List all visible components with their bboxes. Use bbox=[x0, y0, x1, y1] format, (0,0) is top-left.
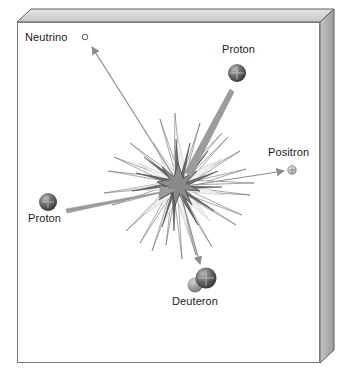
label-positron: Positron bbox=[268, 146, 309, 158]
frame-slab-right bbox=[320, 9, 334, 363]
particle-proton-left bbox=[39, 193, 57, 211]
label-neutrino: Neutrino bbox=[25, 31, 67, 43]
neutrino-icon bbox=[82, 34, 88, 40]
label-proton-top: Proton bbox=[222, 43, 255, 55]
particle-neutrino bbox=[82, 34, 88, 40]
frame-slab-top bbox=[17, 9, 334, 22]
particle-proton-top bbox=[228, 64, 246, 82]
fusion-diagram: Neutrino Proton Positron Proton Deuteron bbox=[0, 0, 350, 375]
label-proton-left: Proton bbox=[28, 212, 61, 224]
label-deuteron: Deuteron bbox=[172, 295, 218, 307]
diagram-canvas bbox=[0, 0, 350, 375]
particle-positron bbox=[288, 166, 296, 174]
